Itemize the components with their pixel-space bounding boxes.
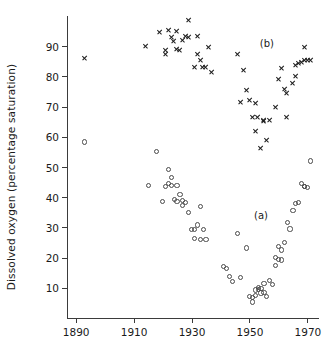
circle-marker-icon [287, 226, 292, 231]
cross-marker-icon [293, 73, 299, 79]
circle-marker-icon [230, 279, 235, 284]
circle-marker-icon [273, 263, 278, 268]
y-tick-label-40: 40 [46, 192, 59, 204]
y-tick-90: 90 [62, 46, 67, 47]
cross-marker-icon [267, 117, 273, 123]
y-tick-10: 10 [62, 288, 67, 289]
y-tick-30: 30 [62, 227, 67, 228]
circle-marker-icon [308, 158, 313, 163]
cross-marker-icon [197, 57, 203, 63]
circle-marker-icon [192, 236, 197, 241]
circle-marker-icon [235, 231, 240, 236]
cross-marker-icon [235, 51, 241, 57]
y-tick-20: 20 [62, 258, 67, 259]
circle-marker-icon [186, 210, 191, 215]
circle-marker-icon [264, 294, 269, 299]
circle-marker-icon [270, 282, 275, 287]
y-tick-label-10: 10 [46, 282, 59, 294]
series-label-b: (b) [260, 38, 274, 49]
cross-marker-icon [290, 80, 296, 86]
cross-marker-icon [252, 100, 258, 106]
cross-marker-icon [284, 90, 290, 96]
circle-marker-icon [261, 281, 266, 286]
circle-marker-icon [177, 192, 182, 197]
cross-marker-icon [275, 76, 281, 82]
circle-marker-icon [198, 237, 203, 242]
circle-marker-icon [82, 139, 87, 144]
y-tick-label-30: 30 [46, 222, 59, 234]
cross-marker-icon [165, 27, 171, 33]
circle-marker-icon [296, 200, 301, 205]
y-tick-label-50: 50 [46, 162, 59, 174]
y-axis-line [67, 16, 68, 318]
y-tick-70: 70 [62, 107, 67, 108]
cross-marker-icon [81, 55, 87, 61]
circle-marker-icon [244, 245, 249, 250]
circle-marker-icon [279, 247, 284, 252]
cross-marker-icon [206, 44, 212, 50]
x-tick-1910: 1910 [134, 318, 135, 323]
x-tick-1890: 1890 [76, 318, 77, 323]
circle-marker-icon [169, 183, 174, 188]
cross-marker-icon [272, 104, 278, 110]
circle-marker-icon [285, 220, 290, 225]
cross-marker-icon [238, 99, 244, 105]
cross-marker-icon [241, 67, 247, 73]
circle-marker-icon [305, 185, 310, 190]
y-tick-label-80: 80 [46, 71, 59, 83]
circle-marker-icon [195, 222, 200, 227]
cross-marker-icon [252, 128, 258, 134]
x-tick-1930: 1930 [192, 318, 193, 323]
cross-marker-icon [194, 33, 200, 39]
circle-marker-icon [160, 199, 165, 204]
cross-marker-icon [307, 57, 313, 63]
x-tick-label-1970: 1970 [295, 326, 322, 338]
circle-marker-icon [201, 227, 206, 232]
y-tick-label-70: 70 [46, 101, 59, 113]
circle-marker-icon [279, 257, 284, 262]
cross-marker-icon [177, 47, 183, 53]
cross-marker-icon [284, 114, 290, 120]
y-tick-label-20: 20 [46, 252, 59, 264]
cross-marker-icon [264, 137, 270, 143]
cross-marker-icon [258, 145, 264, 151]
circle-marker-icon [174, 199, 179, 204]
circle-marker-icon [174, 183, 179, 188]
cross-marker-icon [162, 51, 168, 57]
circle-marker-icon [227, 274, 232, 279]
plot-area: 102030405060708090 18901910193019501970 … [67, 16, 319, 318]
cross-marker-icon [209, 69, 215, 75]
circle-marker-icon [154, 149, 159, 154]
y-tick-80: 80 [62, 76, 67, 77]
x-tick-label-1890: 1890 [63, 326, 90, 338]
circle-marker-icon [166, 167, 171, 172]
cross-marker-icon [243, 87, 249, 93]
y-axis-title: Dissolved oxygen (percentage saturation) [0, 0, 22, 354]
y-tick-40: 40 [62, 197, 67, 198]
cross-marker-icon [171, 38, 177, 44]
y-tick-label-90: 90 [46, 41, 59, 53]
circle-marker-icon [224, 266, 229, 271]
cross-marker-icon [185, 34, 191, 40]
x-tick-1970: 1970 [307, 318, 308, 323]
circle-marker-icon [203, 237, 208, 242]
cross-marker-icon [142, 43, 148, 49]
x-tick-label-1950: 1950 [237, 326, 264, 338]
circle-marker-icon [192, 227, 197, 232]
circle-marker-icon [183, 200, 188, 205]
circle-marker-icon [146, 183, 151, 188]
y-tick-60: 60 [62, 137, 67, 138]
circle-marker-icon [238, 275, 243, 280]
x-tick-1950: 1950 [249, 318, 250, 323]
cross-marker-icon [185, 17, 191, 23]
circle-marker-icon [282, 240, 287, 245]
circle-marker-icon [198, 204, 203, 209]
circle-marker-icon [253, 293, 258, 298]
cross-marker-icon [301, 44, 307, 50]
cross-marker-icon [191, 64, 197, 70]
x-tick-label-1910: 1910 [121, 326, 148, 338]
cross-marker-icon [278, 65, 284, 71]
circle-marker-icon [250, 299, 255, 304]
y-tick-label-60: 60 [46, 131, 59, 143]
scatter-plot-figure: Dissolved oxygen (percentage saturation)… [0, 0, 323, 354]
